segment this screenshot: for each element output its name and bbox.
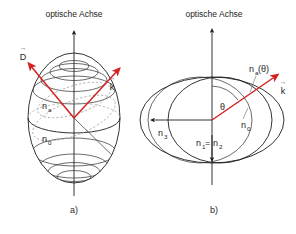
svg-text:n: n bbox=[249, 64, 254, 74]
d-vector-label: → D bbox=[20, 44, 27, 62]
svg-text:D: D bbox=[20, 52, 27, 62]
panel-a-group bbox=[27, 32, 122, 196]
svg-text:n: n bbox=[42, 134, 47, 144]
n-0-label-b: n 0 bbox=[241, 120, 251, 132]
svg-text:n: n bbox=[196, 138, 201, 148]
k-vector-label: → k bbox=[109, 74, 115, 92]
n1-equals-n2-label: n 1 = n 2 bbox=[196, 138, 223, 150]
svg-text:→: → bbox=[280, 78, 286, 85]
n-0-label-a: n 0 bbox=[42, 134, 52, 146]
theta-angle-arc bbox=[212, 86, 238, 100]
svg-text:n: n bbox=[158, 128, 163, 138]
svg-text:k: k bbox=[110, 82, 115, 92]
k-vector-b bbox=[212, 76, 276, 120]
svg-text:3: 3 bbox=[164, 133, 168, 140]
panel-a-caption: a) bbox=[70, 205, 78, 215]
svg-text:0: 0 bbox=[48, 139, 52, 146]
n-3-label: n 3 bbox=[158, 128, 168, 140]
figure-canvas: optische Achse → D → k n a n 0 a) optisc… bbox=[0, 0, 296, 234]
panel-b-group bbox=[140, 30, 284, 185]
panel-b-title: optische Achse bbox=[185, 9, 242, 19]
theta-symbol: θ bbox=[220, 102, 225, 112]
svg-text:0: 0 bbox=[247, 125, 251, 132]
na-theta-label: n a (θ) bbox=[249, 64, 269, 76]
k-vector-label-b: → k bbox=[280, 78, 286, 96]
svg-text:2: 2 bbox=[219, 143, 223, 150]
svg-text:n: n bbox=[42, 101, 47, 111]
panel-a-title: optische Achse bbox=[45, 9, 102, 19]
svg-text:k: k bbox=[281, 86, 286, 96]
figure-container: optische Achse → D → k n a n 0 a) optisc… bbox=[0, 0, 296, 234]
svg-text:→: → bbox=[109, 74, 115, 81]
svg-text:n: n bbox=[241, 120, 246, 130]
panel-b-caption: b) bbox=[210, 205, 218, 215]
svg-text:(θ): (θ) bbox=[258, 64, 269, 74]
svg-text:=: = bbox=[205, 138, 210, 148]
n-a-label-a: n a bbox=[42, 101, 52, 113]
n0-leader-b bbox=[243, 108, 248, 119]
svg-text:→: → bbox=[20, 44, 26, 51]
svg-text:a: a bbox=[48, 106, 52, 113]
svg-text:n: n bbox=[213, 138, 218, 148]
